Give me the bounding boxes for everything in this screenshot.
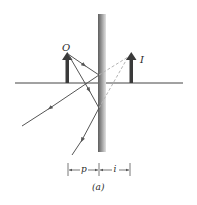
object-label: O: [62, 42, 70, 53]
ray-2: [68, 54, 99, 155]
plane-mirror-diagram: O I p i (a): [0, 0, 197, 205]
figure-caption: (a): [92, 182, 105, 192]
distance-markers: [68, 163, 130, 176]
ray-1: [22, 54, 99, 126]
plane-mirror: [98, 14, 106, 152]
object-distance-label: p: [81, 164, 87, 174]
image-arrow: [126, 52, 137, 83]
image-distance-label: i: [114, 164, 117, 174]
object-arrow: [62, 52, 73, 83]
image-label: I: [139, 54, 145, 65]
